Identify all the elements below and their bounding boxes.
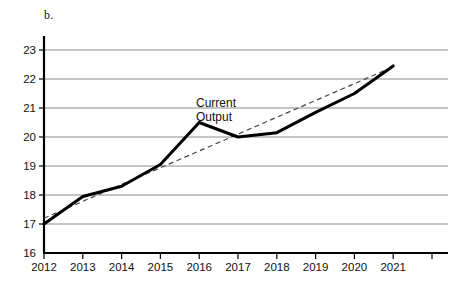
y-tick-label-22: 22 bbox=[23, 73, 36, 85]
y-tick-label-18: 18 bbox=[23, 189, 36, 201]
x-tick-label-2021: 2021 bbox=[380, 261, 406, 273]
annotation-current-output-line1: Current bbox=[196, 96, 237, 110]
y-tick-label-19: 19 bbox=[23, 160, 36, 172]
x-tick-label-2013: 2013 bbox=[70, 261, 96, 273]
line-chart: 23 22 21 20 19 18 17 16 2012 2013 2014 2… bbox=[0, 0, 469, 289]
y-tick-label-17: 17 bbox=[23, 218, 36, 230]
y-tick-label-21: 21 bbox=[23, 102, 36, 114]
x-tick-label-2016: 2016 bbox=[186, 261, 212, 273]
figure-panel-b: b. 23 22 21 20 19 18 bbox=[0, 0, 469, 289]
x-tick-label-2019: 2019 bbox=[303, 261, 329, 273]
x-tick-label-2015: 2015 bbox=[148, 261, 174, 273]
x-tick-label-2012: 2012 bbox=[31, 261, 57, 273]
y-tick-label-16: 16 bbox=[23, 247, 36, 259]
y-tick-label-20: 20 bbox=[23, 131, 36, 143]
annotation-current-output-line2: Output bbox=[196, 110, 233, 124]
x-tick-label-2014: 2014 bbox=[109, 261, 135, 273]
y-tick-label-23: 23 bbox=[23, 44, 36, 56]
x-tick-label-2017: 2017 bbox=[225, 261, 251, 273]
x-tick-label-2020: 2020 bbox=[342, 261, 368, 273]
x-tick-label-2018: 2018 bbox=[264, 261, 290, 273]
